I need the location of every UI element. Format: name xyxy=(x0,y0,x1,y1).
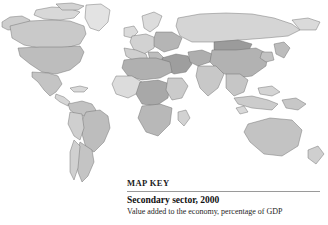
map-key-subtitle: Value added to the economy, percentage o… xyxy=(127,207,322,217)
world-map: .land{stroke:#6b6b6b;stroke-width:.45;st… xyxy=(0,0,328,200)
map-key: MAP KEY Secondary sector, 2000 Value add… xyxy=(127,178,322,217)
map-key-divider xyxy=(127,191,320,192)
map-figure: .land{stroke:#6b6b6b;stroke-width:.45;st… xyxy=(0,0,328,225)
map-key-title: Secondary sector, 2000 xyxy=(127,195,322,206)
world-map-svg: .land{stroke:#6b6b6b;stroke-width:.45;st… xyxy=(0,0,328,200)
map-key-heading: MAP KEY xyxy=(127,178,322,189)
